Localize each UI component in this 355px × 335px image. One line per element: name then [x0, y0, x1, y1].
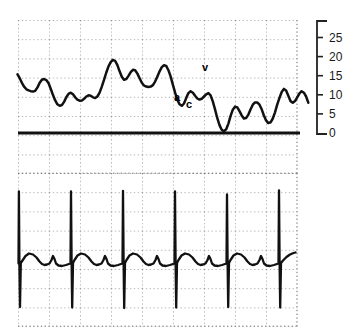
v-wave-label: v: [202, 61, 209, 73]
ytick-0: 0: [329, 126, 336, 140]
ytick-25: 25: [329, 31, 343, 45]
ytick-5: 5: [329, 107, 336, 121]
ecg-panel: [0, 168, 355, 335]
ecg-plot: [0, 168, 355, 335]
ytick-20: 20: [329, 50, 343, 64]
cvp-ecg-figure: a c v 25 20 15 10 5 0: [0, 0, 355, 335]
cvp-plot: a c v 25 20 15 10 5 0: [0, 0, 355, 170]
c-wave-label: c: [186, 98, 192, 110]
cvp-grid: [18, 20, 297, 174]
ytick-15: 15: [329, 69, 343, 83]
cvp-panel: a c v 25 20 15 10 5 0: [0, 0, 355, 170]
pressure-axis: [317, 21, 327, 134]
ecg-grid: [18, 173, 297, 327]
a-wave-label: a: [174, 91, 181, 103]
ytick-10: 10: [329, 88, 343, 102]
